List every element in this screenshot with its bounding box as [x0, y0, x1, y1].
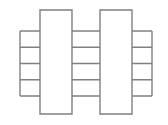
right-plate-group	[100, 10, 132, 114]
diagram-canvas	[0, 0, 168, 125]
technical-line-drawing	[0, 0, 168, 125]
left-plate	[40, 10, 72, 114]
left-plate-group	[40, 10, 72, 114]
right-plate	[100, 10, 132, 114]
